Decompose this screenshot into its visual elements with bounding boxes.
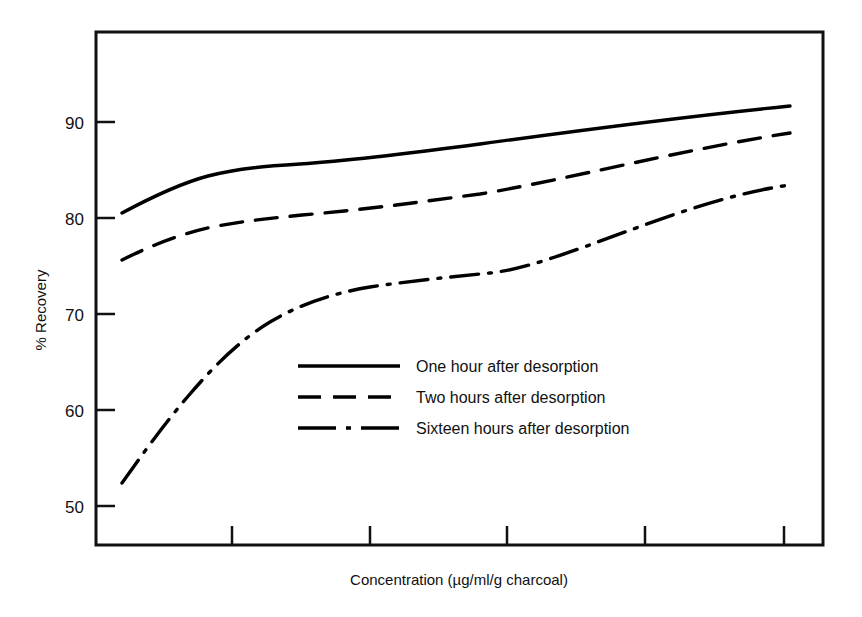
canvas-background <box>0 0 862 617</box>
figure-container: 90 80 70 60 50 % Recovery Concentration … <box>0 0 862 617</box>
y-tick-label-60: 60 <box>65 402 84 421</box>
legend-label-one-hour: One hour after desorption <box>416 358 598 375</box>
legend-label-two-hours: Two hours after desorption <box>416 389 605 406</box>
y-tick-label-50: 50 <box>65 498 84 517</box>
legend-label-sixteen-hours: Sixteen hours after desorption <box>416 420 629 437</box>
y-tick-label-70: 70 <box>65 306 84 325</box>
y-tick-label-90: 90 <box>65 114 84 133</box>
y-axis-title: % Recovery <box>32 269 49 350</box>
line-chart: 90 80 70 60 50 % Recovery Concentration … <box>0 0 862 617</box>
x-axis-title: Concentration (µg/ml/g charcoal) <box>350 571 568 588</box>
y-tick-label-80: 80 <box>65 210 84 229</box>
